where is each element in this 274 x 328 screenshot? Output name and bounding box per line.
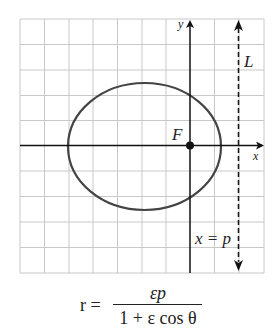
formula-lhs: r = — [80, 295, 101, 315]
focus-point — [186, 142, 194, 150]
directrix-equation-label: x = p — [194, 229, 231, 248]
y-axis-label: y — [177, 17, 184, 31]
formula-numerator: εp — [150, 283, 166, 303]
ellipse-curve — [68, 83, 221, 210]
formula-denominator: 1 + ε cos θ — [119, 308, 196, 328]
conic-diagram: y x L F x = p r = εp 1 + ε cos θ — [0, 0, 274, 328]
polar-formula: r = εp 1 + ε cos θ — [80, 283, 202, 328]
focus-label: F — [171, 125, 183, 144]
directrix-label: L — [243, 52, 253, 71]
x-axis-label: x — [252, 149, 259, 163]
